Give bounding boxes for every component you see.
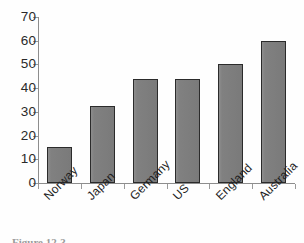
x-tick-mark xyxy=(295,184,296,189)
x-tick-mark xyxy=(209,184,210,189)
y-tick-label: 70 xyxy=(2,10,36,24)
x-tick-mark xyxy=(38,184,39,189)
plot-area xyxy=(38,17,295,183)
figure-caption: Figure 12-3 xyxy=(12,236,66,243)
y-tick-label: 20 xyxy=(2,129,36,143)
bar xyxy=(261,41,286,183)
x-tick-label: US xyxy=(170,181,192,203)
x-tick-mark xyxy=(81,184,82,189)
bar xyxy=(175,79,200,183)
y-tick-label: 40 xyxy=(2,81,36,95)
y-tick-label: 10 xyxy=(2,152,36,166)
figure-container: 010203040506070 NorwayJapanGermanyUSEngl… xyxy=(0,0,304,243)
x-tick-mark xyxy=(124,184,125,189)
x-tick-mark xyxy=(167,184,168,189)
x-tick-mark xyxy=(252,184,253,189)
y-tick-label: 60 xyxy=(2,34,36,48)
y-tick-label: 50 xyxy=(2,57,36,71)
y-tick-label: 0 xyxy=(2,176,36,190)
y-tick-label: 30 xyxy=(2,105,36,119)
